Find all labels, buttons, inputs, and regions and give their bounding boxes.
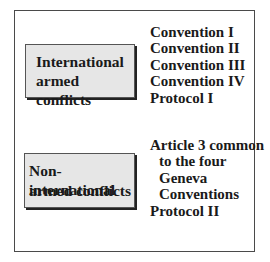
instrument-item: Conventions: [150, 186, 264, 202]
instrument-list-non-international: Article 3 common to the four Geneva Conv…: [150, 137, 264, 219]
instrument-item: to the four: [150, 153, 264, 169]
instrument-item: Geneva: [150, 170, 264, 186]
instrument-item: Convention IV: [150, 73, 245, 89]
instrument-item: Convention III: [150, 57, 245, 73]
category-box-non-international: Non-international armed conflicts: [24, 153, 135, 208]
category-label-line: International: [36, 52, 124, 71]
instrument-item: Convention II: [150, 40, 245, 56]
category-box-international: International armed conflicts: [25, 44, 135, 98]
instrument-item: Convention I: [150, 24, 245, 40]
instrument-item: Protocol II: [150, 203, 264, 219]
instrument-item: Article 3 common: [150, 137, 264, 153]
instrument-item: Protocol I: [150, 90, 245, 106]
instrument-list-international: Convention I Convention II Convention II…: [150, 24, 245, 106]
category-label-line: armed conflicts: [29, 181, 131, 200]
category-label-line: armed conflicts: [36, 71, 134, 109]
